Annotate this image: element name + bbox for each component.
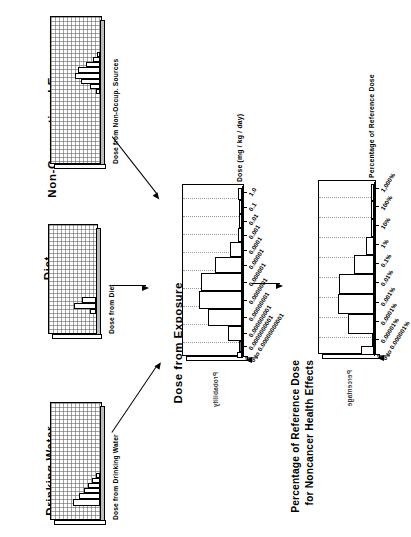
probability-axis-name: Probability bbox=[212, 372, 219, 407]
axis-tick-label: 0.01% bbox=[379, 269, 394, 288]
gridline bbox=[319, 197, 375, 198]
axis-tick-label: 0.1% bbox=[379, 253, 393, 269]
bar bbox=[339, 274, 374, 294]
gridline bbox=[183, 198, 243, 199]
panel-percentage-title-line1: Percentage of Reference Dose bbox=[290, 360, 301, 513]
diet-axis-label: Dose from Diet bbox=[108, 284, 115, 334]
percentage-axis-name: Percentage of Reference Dose bbox=[368, 74, 375, 178]
bar bbox=[338, 294, 374, 314]
bar bbox=[371, 201, 374, 219]
non-occupational-base-lip bbox=[54, 164, 106, 169]
gridline bbox=[319, 217, 375, 218]
gridline bbox=[319, 337, 375, 338]
axis-tick-label: 0.1 bbox=[247, 201, 258, 212]
bar bbox=[215, 257, 242, 273]
bar bbox=[371, 184, 374, 201]
non-occupational-axis-label: Dose from Non-Occup. Sources bbox=[112, 59, 119, 164]
bar bbox=[201, 273, 242, 291]
bar bbox=[199, 291, 242, 309]
axis-tick-label: 1.0 bbox=[247, 186, 258, 197]
bar bbox=[90, 309, 96, 314]
drinking-water-axis-label: Dose from Drinking Water bbox=[112, 434, 119, 520]
panel-non-occupational: Non-Occupational Exposure Dose from Non-… bbox=[26, 14, 104, 170]
bar bbox=[238, 188, 242, 200]
percentage-value-axis-name: Percentage bbox=[346, 370, 353, 406]
bar bbox=[366, 237, 374, 255]
bar bbox=[230, 242, 242, 257]
axis-tick-label: 100% bbox=[379, 194, 393, 211]
gridline bbox=[183, 342, 243, 343]
axis-tick-label: 1,000% bbox=[379, 172, 396, 194]
bar bbox=[73, 499, 100, 506]
diet-base-lip bbox=[52, 334, 102, 339]
panel-dose-from-exposure: Dose from Exposure bbox=[160, 106, 280, 391]
axis-tick-label: 1% bbox=[379, 238, 390, 249]
bar bbox=[361, 346, 374, 355]
dose-axis-name: Dose (mg / kg / day) bbox=[236, 114, 243, 182]
panel-percentage-title-line2: for Noncancer Health Effects bbox=[304, 360, 315, 505]
non-occupational-plot-area bbox=[50, 16, 102, 164]
panel-percentage-of-reference-dose: Percentage of Reference Dose for Noncanc… bbox=[278, 98, 410, 398]
panel-diet: Diet Dose from Diet bbox=[24, 222, 104, 342]
panel-drinking-water: Drinking Water Dose from Drinking Water bbox=[26, 400, 108, 528]
figure-canvas: Non-Occupational Exposure Dose from Non-… bbox=[0, 0, 411, 537]
bar bbox=[208, 309, 242, 326]
bar bbox=[348, 314, 374, 334]
gridline bbox=[183, 216, 243, 217]
diet-plot-area bbox=[48, 224, 98, 334]
drinking-water-base-lip bbox=[54, 520, 106, 525]
bar bbox=[228, 326, 242, 341]
diet-depth-strip bbox=[96, 228, 101, 338]
bar bbox=[354, 255, 374, 274]
drinking-water-depth-strip bbox=[100, 406, 105, 524]
non-occupational-depth-strip bbox=[100, 20, 105, 168]
percentage-axis-line bbox=[374, 182, 375, 356]
bar bbox=[371, 219, 374, 237]
axis-tick-label: 10% bbox=[379, 216, 392, 230]
bar bbox=[96, 89, 100, 94]
gridline bbox=[183, 234, 243, 235]
